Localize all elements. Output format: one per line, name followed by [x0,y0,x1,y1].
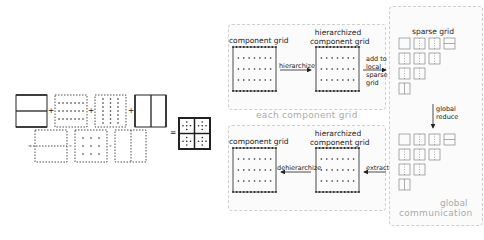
dehierarchize-arrow-label: dehierarchize [277,164,321,173]
plus-operator-1: + [48,107,54,116]
global-reduce-label-2: reduce [436,113,458,122]
extract-arrow-label: extract [366,164,389,173]
component-grid-label-bottom: component grid [229,138,281,147]
equals-operator: = [170,129,176,138]
plus-operator-2: + [88,107,94,116]
hierarchized-label-top-2: component grid [310,38,366,47]
component-grid-label-top: component grid [229,37,281,46]
plus-operator-3: + [128,107,134,116]
sparse-grid-label: sparse grid [412,28,454,37]
global-communication-title-1: global [440,199,467,208]
minus-operator-3: - [109,142,112,151]
minus-operator-1: - [28,142,31,151]
add-to-label-4: grid [366,79,379,88]
each-component-grid-title: each component grid [256,111,358,120]
global-communication-title-2: communication [399,209,473,218]
hierarchize-arrow-label: hierarchize [279,62,315,71]
hierarchized-label-bottom-2: component grid [310,139,366,148]
minus-operator-2: - [69,142,72,151]
